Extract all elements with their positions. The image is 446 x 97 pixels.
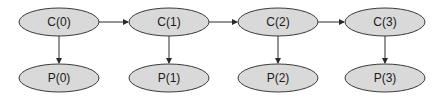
node-label: C(3): [373, 15, 396, 29]
node-label: P(0): [48, 71, 71, 85]
node-c3: C(3): [345, 8, 425, 36]
node-c2: C(2): [238, 8, 318, 36]
node-label: P(3): [374, 71, 397, 85]
node-label: C(2): [266, 15, 289, 29]
node-label: C(0): [47, 15, 70, 29]
node-label: P(1): [158, 71, 181, 85]
node-p3: P(3): [345, 64, 425, 92]
node-p2: P(2): [238, 64, 318, 92]
node-c1: C(1): [129, 8, 209, 36]
node-p0: P(0): [19, 64, 99, 92]
node-label: C(1): [157, 15, 180, 29]
chain-diagram: C(0) C(1) C(2) C(3) P(0) P(1) P(2) P(3): [0, 0, 446, 97]
node-p1: P(1): [129, 64, 209, 92]
node-c0: C(0): [19, 8, 99, 36]
node-label: P(2): [267, 71, 290, 85]
